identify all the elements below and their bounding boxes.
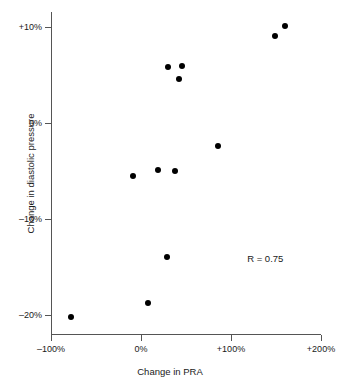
y-axis-tick <box>45 123 51 124</box>
data-point <box>165 64 171 70</box>
y-axis-title: Change in diastolic pressure <box>25 74 36 274</box>
x-axis-title: Change in PRA <box>0 366 340 377</box>
x-axis-tick-label: –100% <box>37 345 65 354</box>
x-axis-tick-label: +100% <box>217 345 245 354</box>
correlation-annotation: R = 0.75 <box>247 253 283 264</box>
data-point <box>179 63 185 69</box>
data-point <box>130 173 136 179</box>
data-point <box>155 167 161 173</box>
y-axis-tick-label: –20% <box>19 311 42 320</box>
y-axis-tick-label: +10% <box>19 23 42 32</box>
data-point <box>282 23 288 29</box>
x-axis-tick <box>321 335 322 341</box>
scatter-plot-figure: +10%0%–10%–20% –100%0%+100%+200% R = 0.7… <box>0 0 340 388</box>
data-point <box>172 168 178 174</box>
x-axis-tick <box>231 335 232 341</box>
data-point <box>176 76 182 82</box>
x-axis-tick <box>141 335 142 341</box>
x-axis-tick <box>51 335 52 341</box>
x-axis-tick-label: +200% <box>307 345 335 354</box>
data-point <box>272 33 278 39</box>
x-axis-spine <box>51 334 321 335</box>
y-axis-tick <box>45 27 51 28</box>
y-axis-spine <box>51 12 52 335</box>
data-point <box>164 254 170 260</box>
x-axis-tick-label: 0% <box>134 345 147 354</box>
data-point <box>145 300 151 306</box>
y-axis-tick <box>45 219 51 220</box>
data-point <box>68 314 74 320</box>
data-point <box>215 143 221 149</box>
y-axis-tick <box>45 315 51 316</box>
